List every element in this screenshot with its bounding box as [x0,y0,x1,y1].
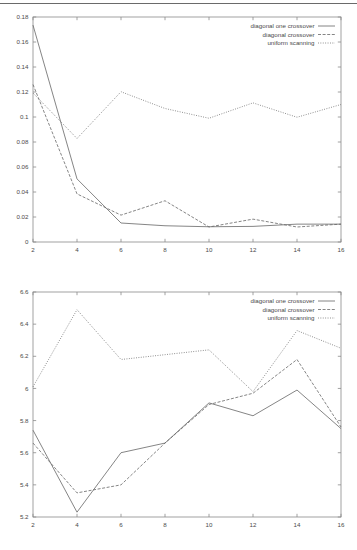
bottom-y-axis-tick-label: 5.4 [20,481,29,488]
top-y-axis-tick-label: 0.12 [16,88,29,95]
top-x-axis-tick-label: 10 [206,246,213,253]
top-legend-label-2: diagonal crossover [263,31,315,38]
top-y-axis-tick-label: 0.04 [16,188,29,195]
top-series-3 [33,92,341,139]
bottom-y-axis-tick-label: 6 [25,385,29,392]
bottom-series-2 [33,360,341,493]
bottom-x-axis-tick-label: 10 [206,521,213,528]
bottom-y-axis-tick-label: 5.6 [20,449,29,456]
bottom-series-3 [33,310,341,392]
bottom-x-axis-tick-label: 16 [338,521,345,528]
convergence-error-chart: 00.020.040.060.080.10.120.140.160.182468… [0,8,357,270]
bottom-x-axis-tick-label: 2 [31,521,35,528]
top-y-axis-tick-label: 0 [25,238,29,245]
figure-page: 00.020.040.060.080.10.120.140.160.182468… [0,0,357,550]
top-y-axis-tick-label: 0.1 [20,113,29,120]
top-y-axis-tick-label: 0.16 [16,38,29,45]
top-x-axis-tick-label: 8 [163,246,167,253]
fitness-value-plot: 5.25.45.65.866.26.46.6246810121416diagon… [0,283,357,545]
bottom-series-1 [33,390,341,512]
top-series-2 [33,85,341,228]
bottom-legend-label-1: diagonal one crossover [251,297,315,304]
bottom-x-axis-tick-label: 12 [250,521,257,528]
bottom-x-axis-tick-label: 6 [119,521,123,528]
fitness-value-chart: 5.25.45.65.866.26.46.6246810121416diagon… [0,283,357,545]
bottom-x-axis-tick-label: 4 [75,521,79,528]
top-y-axis-tick-label: 0.02 [16,213,29,220]
bottom-x-axis-tick-label: 8 [163,521,167,528]
bottom-x-axis-tick-label: 14 [294,521,301,528]
bottom-legend-label-3: uniform scanning [267,314,315,321]
top-x-axis-tick-label: 2 [31,246,35,253]
bottom-y-axis-tick-label: 5.8 [20,417,29,424]
top-y-axis-tick-label: 0.06 [16,163,29,170]
top-series-1 [33,25,341,227]
bottom-y-axis-tick-label: 6.4 [20,320,29,327]
page-top-rule [0,3,357,4]
top-x-axis-tick-label: 14 [294,246,301,253]
bottom-legend-label-2: diagonal crossover [263,306,315,313]
top-x-axis-tick-label: 4 [75,246,79,253]
top-legend-label-1: diagonal one crossover [251,22,315,29]
bottom-y-axis-tick-label: 6.6 [20,288,29,295]
top-x-axis-tick-label: 6 [119,246,123,253]
bottom-plot-frame [33,292,341,517]
top-y-axis-tick-label: 0.08 [16,138,29,145]
top-legend-label-3: uniform scanning [267,39,315,46]
top-plot-frame [33,17,341,242]
top-x-axis-tick-label: 16 [338,246,345,253]
top-y-axis-tick-label: 0.14 [16,63,29,70]
top-y-axis-tick-label: 0.18 [16,13,29,20]
bottom-y-axis-tick-label: 6.2 [20,352,29,359]
top-x-axis-tick-label: 12 [250,246,257,253]
bottom-y-axis-tick-label: 5.2 [20,513,29,520]
convergence-error-plot: 00.020.040.060.080.10.120.140.160.182468… [0,8,357,270]
